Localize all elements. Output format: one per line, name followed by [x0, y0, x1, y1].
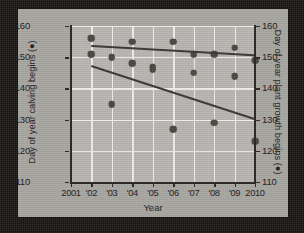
x-axis-tick: [91, 183, 92, 187]
y-axis-tick-left: [65, 182, 69, 183]
x-axis-tick: [173, 183, 174, 187]
data-point: [149, 66, 156, 73]
y-axis-tick-right: [256, 26, 260, 27]
x-tick-label: '03: [106, 189, 117, 198]
data-point: [129, 60, 136, 67]
data-point: [109, 101, 116, 108]
chart-figure: 110120130140150160 110120130140150160 20…: [18, 9, 288, 217]
gridline-horizontal: [71, 26, 255, 27]
x-tick-label: 2010: [245, 189, 264, 198]
y-axis-tick-left: [65, 26, 69, 27]
data-point: [88, 51, 95, 58]
y-axis-tick-left: [65, 57, 69, 58]
screenshot-root: 110120130140150160 110120130140150160 20…: [0, 0, 304, 233]
y-axis-left-spine: [70, 25, 72, 183]
y-axis-tick-left: [65, 88, 69, 89]
x-tick-label: '04: [127, 189, 138, 198]
y-axis-tick-right: [256, 120, 260, 121]
x-tick-label: '06: [168, 189, 179, 198]
data-point: [170, 126, 177, 133]
x-axis-tick: [214, 183, 215, 187]
y-axis-tick-right: [256, 182, 260, 183]
data-point: [170, 38, 177, 45]
x-axis-tick: [235, 183, 236, 187]
x-tick-label: '08: [209, 189, 220, 198]
x-axis-tick: [153, 183, 154, 187]
gridline-horizontal: [71, 57, 255, 58]
gridline-vertical: [194, 26, 195, 182]
y-axis-tick-right: [256, 88, 260, 89]
gridline-horizontal: [71, 120, 255, 121]
x-axis-title: Year: [18, 202, 288, 213]
x-axis-tick: [132, 183, 133, 187]
x-tick-label: 2001: [61, 189, 80, 198]
x-axis-tick: [255, 183, 256, 187]
gridline-horizontal: [71, 151, 255, 152]
data-point: [190, 70, 197, 77]
y-axis-left-title: Day of year calving begins (●): [27, 22, 37, 182]
data-point: [211, 119, 218, 126]
y-axis-tick-left: [65, 120, 69, 121]
y-axis-tick-right: [256, 57, 260, 58]
data-point: [231, 45, 238, 52]
gridline-vertical: [91, 26, 92, 182]
y-axis-right-title: Day of year plant growth begins (●): [273, 22, 283, 182]
data-point: [129, 38, 136, 45]
y-axis-tick-right: [256, 151, 260, 152]
plot-area: [71, 26, 255, 182]
x-tick-label: '07: [188, 189, 199, 198]
x-tick-label: '05: [147, 189, 158, 198]
x-axis-tick: [194, 183, 195, 187]
data-point: [109, 54, 116, 61]
data-point: [88, 35, 95, 42]
x-axis-spine: [70, 182, 256, 184]
x-axis-tick: [112, 183, 113, 187]
data-point: [231, 73, 238, 80]
y-axis-right-spine: [254, 25, 256, 183]
x-tick-label: '09: [229, 189, 240, 198]
y-axis-tick-left: [65, 151, 69, 152]
x-tick-label: '02: [86, 189, 97, 198]
x-axis-tick: [71, 183, 72, 187]
